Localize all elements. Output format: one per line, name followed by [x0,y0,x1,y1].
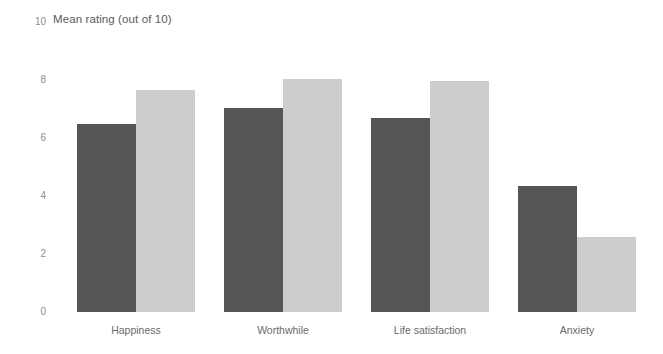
x-axis-category-label: Happiness [56,325,216,336]
bar-series-b [283,79,342,312]
bar-series-b [136,90,195,312]
x-axis-category-label: Worthwhile [203,325,363,336]
bar-series-b [430,81,489,312]
x-axis-category-label: Anxiety [497,325,657,336]
bar-series-a [224,108,283,312]
bars-layer [0,0,663,354]
bar-series-b [577,237,636,312]
bar-series-a [77,124,136,313]
x-axis-category-label: Life satisfaction [350,325,510,336]
bar-series-a [518,186,577,312]
bar-chart: Mean rating (out of 10) 10 8 6 4 2 0 Hap… [0,0,663,354]
bar-series-a [371,118,430,312]
